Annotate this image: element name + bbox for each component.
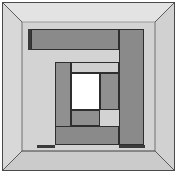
bottom-left-shadow-sliver [37, 145, 55, 148]
inner-bottom-block [71, 110, 100, 126]
figure-canvas [0, 0, 179, 175]
inner-top-band-block [71, 62, 119, 73]
top-bar-block [31, 29, 119, 50]
center-white-block [71, 73, 100, 110]
right-column-block [119, 29, 144, 145]
floor-plane [3, 151, 174, 170]
right-wall-plane [155, 3, 174, 170]
bottom-right-shadow-sliver [119, 145, 145, 148]
inner-right-block [100, 73, 119, 110]
bottom-bar-block [55, 126, 119, 145]
ceiling-plane [3, 3, 174, 22]
left-wall-plane [3, 3, 22, 170]
